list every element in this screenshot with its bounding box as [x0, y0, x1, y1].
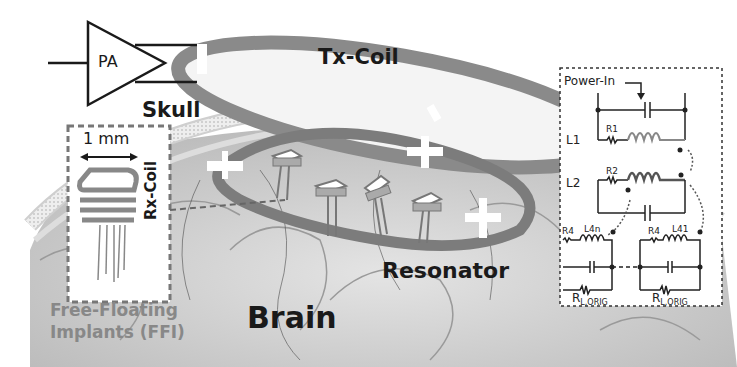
l41-label: L41 — [672, 224, 688, 234]
rl-left-label: RL,ORIG — [572, 291, 608, 307]
resonator-label: Resonator — [382, 258, 509, 283]
figure: PA Tx-Coil Skull 1 mm Rx-Coil Free-Float… — [0, 0, 737, 367]
ffi-label-line1: Free-Floating — [50, 300, 178, 320]
ffi-label-line2: Implants (FFI) — [50, 322, 185, 342]
power-in-label: Power-In — [564, 74, 615, 88]
r1-label: R1 — [606, 124, 618, 134]
skull-label: Skull — [142, 98, 200, 122]
r2-label: R2 — [606, 166, 618, 176]
rl-right-label: RL,ORIG — [652, 291, 688, 307]
tx-coil-label: Tx-Coil — [318, 45, 399, 69]
r4-left-label: R4 — [562, 226, 574, 236]
l2-label: L2 — [566, 176, 580, 190]
r4-right-label: R4 — [648, 226, 660, 236]
pa-label: PA — [98, 52, 118, 71]
l4n-label: L4n — [584, 224, 600, 234]
rx-coil-label: Rx-Coil — [142, 161, 160, 220]
l1-label: L1 — [566, 133, 580, 147]
circuit-inset — [560, 68, 722, 306]
brain-label: Brain — [247, 300, 337, 335]
scale-label: 1 mm — [83, 129, 129, 148]
